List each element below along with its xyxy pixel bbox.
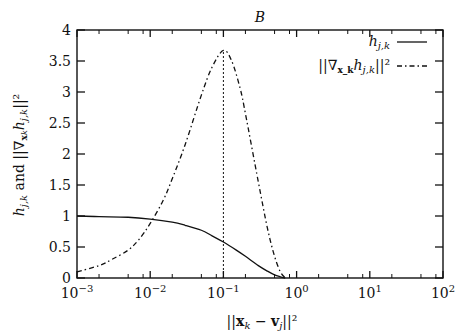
series-h-line: [77, 216, 285, 278]
chart: 10−310−210−1100101102 00.511.522.533.54 …: [0, 0, 466, 334]
x-axis-label: ||xk − vj||²: [227, 313, 298, 331]
y-tick-label: 2.5: [49, 115, 71, 131]
y-tick-label: 1.5: [49, 177, 71, 193]
legend-label-h: hj,k: [369, 33, 390, 51]
series-gradient-line: [77, 50, 285, 278]
series-layer: [77, 50, 285, 278]
x-tick-label: 10−2: [134, 283, 167, 301]
y-tick-label: 4: [62, 22, 71, 38]
y-tick-label: 0: [62, 270, 71, 286]
x-tick-label: 100: [284, 283, 308, 301]
x-tick-label: 10−1: [207, 283, 240, 301]
y-tick-label: 0.5: [49, 239, 71, 255]
x-axis: 10−310−210−1100101102: [61, 30, 455, 301]
y-axis-label: hj,k and ||∇xkhj,k||²: [11, 94, 29, 216]
x-tick-label: 102: [431, 283, 455, 301]
chart-title: B: [254, 9, 265, 25]
y-tick-label: 3.5: [49, 53, 71, 69]
x-tick-label: 101: [358, 283, 382, 301]
y-tick-label: 3: [62, 84, 71, 100]
legend: hj,k||∇x_khj,k||²: [318, 33, 427, 75]
y-tick-label: 1: [62, 208, 71, 224]
legend-label-gradient: ||∇x_khj,k||²: [318, 57, 390, 75]
y-tick-label: 2: [62, 146, 71, 162]
